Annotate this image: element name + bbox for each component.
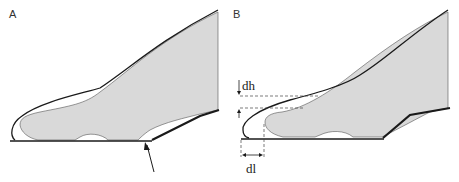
panel-a-label: A <box>9 8 17 20</box>
foot-shape-b <box>265 12 448 137</box>
panel-b: B dh dl <box>233 8 450 176</box>
dl-label: dl <box>246 161 257 176</box>
dh-arrow-head-icon <box>237 91 241 95</box>
dh-arrow-up-head-icon <box>237 109 241 113</box>
panel-b-label: B <box>233 8 240 20</box>
foot-shoe-diagram: A B dh dl <box>0 0 459 182</box>
dh-label: dh <box>242 78 256 93</box>
arrow-head-icon <box>144 142 150 150</box>
dl-arrow-right-head-icon <box>259 153 263 157</box>
dl-arrow-left-head-icon <box>242 153 246 157</box>
figure: A B dh dl <box>0 0 459 182</box>
panel-a: A <box>9 8 219 172</box>
